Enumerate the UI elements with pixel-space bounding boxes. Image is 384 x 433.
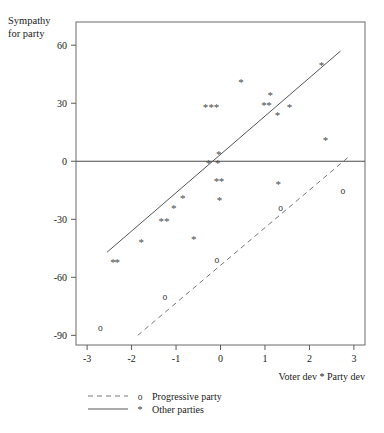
legend-marker: o [138,392,143,402]
data-point-marker: * [323,134,329,146]
y-axis-tick-label: -60 [54,272,67,283]
data-point-marker: * [180,192,186,204]
legend-marker: * [137,403,143,415]
data-point-marker: * [203,101,209,113]
scatter-plot: 60300-30-60-90-3-2-10123Sympathyfor part… [0,0,384,433]
y-axis-tick-label: 60 [57,40,67,51]
data-point-marker: * [164,215,170,227]
data-point-marker: * [115,256,121,268]
data-point-marker: * [216,148,222,160]
y-axis-tick-label: -30 [54,214,67,225]
x-axis-tick-label: -2 [127,353,135,364]
data-point-marker: * [219,175,225,187]
legend-label: Other parties [152,404,204,415]
y-axis-tick-label: 0 [62,156,67,167]
data-point-marker: * [275,109,281,121]
y-axis-tick-label: 30 [57,98,67,109]
data-point-marker: * [276,178,282,190]
data-point-marker: * [287,101,293,113]
data-point-marker: o [340,186,345,196]
data-point-marker: * [214,101,220,113]
y-axis-tick-label: -90 [54,330,67,341]
data-point-marker: o [98,323,103,333]
data-point-marker: * [171,202,177,214]
y-axis-title-line: for party [8,28,45,39]
x-axis-tick-label: 2 [307,353,312,364]
data-point-marker: * [319,59,325,71]
data-point-marker: * [238,76,244,88]
legend-label: Progressive party [152,391,222,402]
x-axis-title: Voter dev * Party dev [279,371,365,382]
data-point-marker: * [139,236,145,248]
x-axis-tick-label: 1 [262,353,267,364]
data-point-marker: * [206,157,212,169]
x-axis-tick-label: -1 [172,353,180,364]
regression-line-dashed [138,155,351,335]
data-point-marker: * [268,89,274,101]
data-point-marker: * [191,233,197,245]
x-axis-tick-label: -3 [83,353,91,364]
x-axis-tick-label: 0 [218,353,223,364]
data-point-marker: * [217,194,223,206]
data-point-marker: o [278,203,283,213]
y-axis-title-line: Sympathy [8,15,51,26]
data-point-marker: o [215,255,220,265]
chart-figure: 60300-30-60-90-3-2-10123Sympathyfor part… [0,0,384,433]
regression-line-solid [107,51,340,252]
x-axis-tick-label: 3 [351,353,356,364]
data-point-marker: o [163,292,168,302]
